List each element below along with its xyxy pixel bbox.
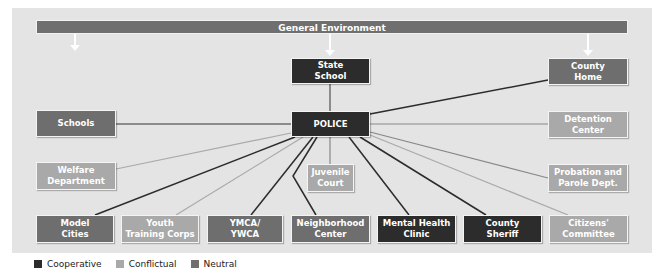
legend: Cooperative Conflictual Neutral: [34, 259, 237, 269]
legend-label: Cooperative: [47, 259, 102, 269]
node-schools: Schools: [36, 110, 116, 137]
node-detention-center: Detention Center: [548, 111, 628, 138]
node-welfare-department: Welfare Department: [36, 162, 116, 190]
legend-item-cooperative: Cooperative: [34, 259, 102, 269]
node-juvenile-court: Juvenile Court: [307, 164, 354, 192]
node-state-school: State School: [291, 58, 370, 84]
node-ymca-ywca: YMCA/ YWCA: [207, 215, 283, 243]
legend-item-conflictual: Conflictual: [116, 259, 177, 269]
node-mental-health-clinic: Mental Health Clinic: [377, 215, 456, 243]
node-probation-parole: Probation and Parole Dept.: [548, 164, 628, 192]
node-model-cities: Model Cities: [36, 215, 114, 243]
cooperative-swatch-icon: [34, 260, 42, 268]
conflictual-swatch-icon: [116, 260, 124, 268]
node-youth-training-corps: Youth Training Corps: [121, 215, 199, 243]
node-police: POLICE: [291, 111, 370, 137]
node-county-home: County Home: [548, 58, 628, 85]
legend-item-neutral: Neutral: [191, 259, 237, 269]
node-citizens-committee: Citizens' Committee: [549, 215, 628, 243]
node-neighborhood-center: Neighborhood Center: [291, 215, 370, 243]
legend-label: Conflictual: [129, 259, 177, 269]
node-county-sheriff: County Sheriff: [463, 215, 542, 243]
neutral-swatch-icon: [191, 260, 199, 268]
legend-label: Neutral: [204, 259, 237, 269]
